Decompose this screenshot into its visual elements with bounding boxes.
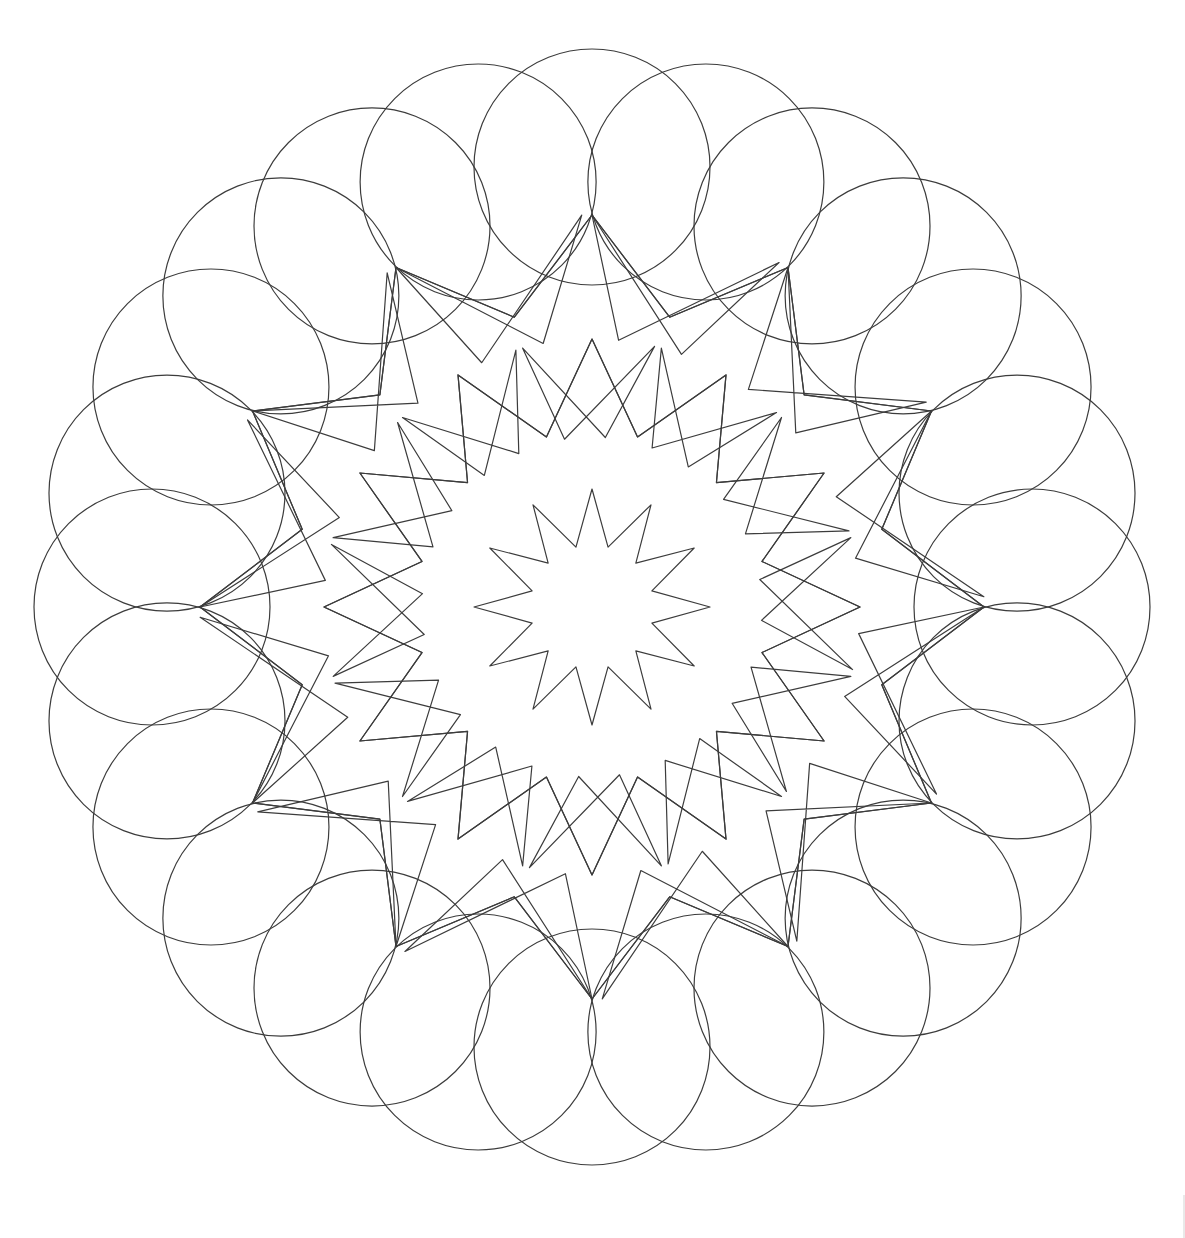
outer-kite-tile <box>592 215 779 354</box>
inner-kite-tile <box>665 739 781 864</box>
inner-kite-tile <box>724 418 849 534</box>
inner-kite-tile <box>333 423 452 547</box>
scallop-circle <box>360 64 596 300</box>
scallop-circle <box>49 603 285 839</box>
scallop-circle <box>914 489 1150 725</box>
mandala-page <box>0 0 1185 1238</box>
inner-kite-tile <box>523 346 655 439</box>
outer-kite-tile <box>766 763 931 941</box>
central-star-layer <box>474 489 710 725</box>
inner-kite-tile <box>331 544 424 676</box>
scallop-circle <box>785 178 1021 414</box>
outer-kite-tile <box>200 420 339 607</box>
scallop-circle <box>93 709 329 945</box>
inner-kite-tile <box>335 680 460 796</box>
scallop-circle <box>694 870 930 1106</box>
inner-kite-ring-layer <box>331 346 852 867</box>
scallop-circle <box>474 49 710 285</box>
outer-kite-tile <box>253 273 418 451</box>
scallop-circle <box>855 269 1091 505</box>
inner-kite-tile <box>652 348 776 467</box>
outer-kite-tile <box>845 607 984 794</box>
outer-star-outline-b <box>200 215 984 999</box>
inner-kite-tile <box>529 775 661 868</box>
inner-kite-tile <box>760 538 853 670</box>
scallop-circle <box>588 914 824 1150</box>
central-star-outline <box>474 489 710 725</box>
outer-kite-tile <box>748 268 926 433</box>
scallop-circle <box>34 489 270 725</box>
outer-kite-ring-layer <box>200 215 984 999</box>
scallop-circle <box>899 375 1135 611</box>
inner-kite-tile <box>408 747 532 866</box>
outer-kite-tile <box>405 860 592 999</box>
scallop-circle <box>163 800 399 1036</box>
inner-kite-tile <box>403 350 519 475</box>
mandala-artwork <box>0 0 1185 1238</box>
outer-kite-tile <box>258 781 436 946</box>
inner-kite-tile <box>732 667 851 791</box>
outer-star-ring-layer <box>200 215 984 999</box>
scallop-circle <box>163 178 399 414</box>
outer-star-outline-a <box>200 215 984 999</box>
scallop-circle <box>254 108 490 344</box>
scallop-circle <box>785 800 1021 1036</box>
scallop-circle <box>474 929 710 1165</box>
